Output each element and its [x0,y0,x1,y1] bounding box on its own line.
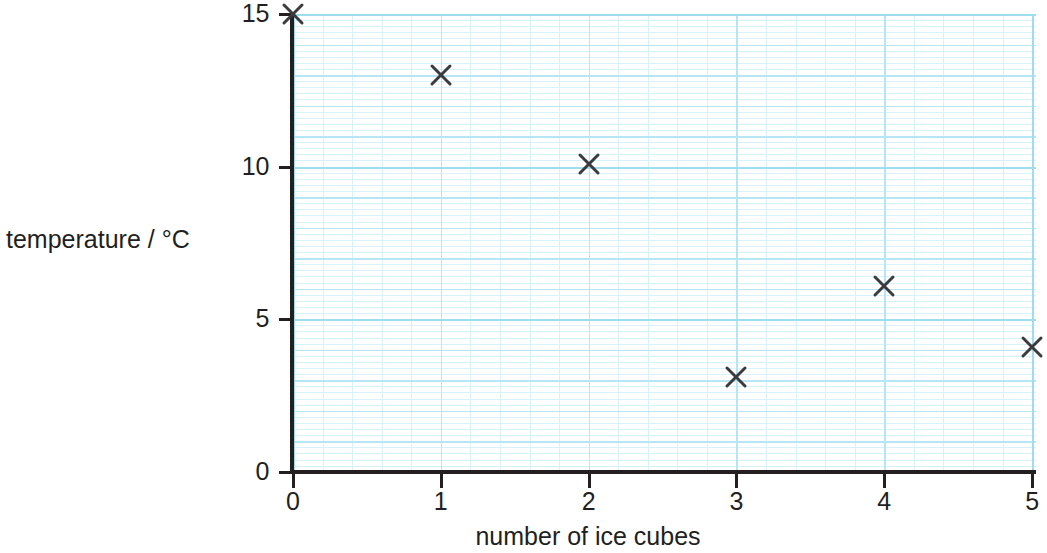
x-tick-label: 1 [421,489,461,514]
y-tick-mark [279,13,293,16]
x-tick-mark [588,473,591,488]
x-axis-label-text: number of ice cubes [475,521,700,551]
y-tick-mark [279,471,293,474]
x-tick-mark [292,473,295,488]
y-tick-label: 15 [225,1,269,26]
x-tick-label: 3 [716,489,756,514]
x-tick-label: 2 [569,489,609,514]
x-tick-label: 5 [1012,489,1047,514]
y-tick-label: 10 [225,154,269,179]
x-tick-mark [883,473,886,488]
x-axis-line [290,470,1036,474]
y-tick-label: 0 [225,459,269,484]
y-tick-mark [279,318,293,321]
x-tick-mark [440,473,443,488]
x-axis-label: number of ice cubes [0,521,1036,551]
y-axis-line [290,12,294,474]
x-tick-label: 4 [864,489,904,514]
y-axis-label: temperature / °C [6,224,190,254]
x-tick-mark [735,473,738,488]
x-tick-label: 0 [273,489,313,514]
y-tick-label: 5 [225,306,269,331]
y-tick-mark [279,166,293,169]
plot-grid-area [293,14,1036,472]
x-tick-mark [1031,473,1034,488]
